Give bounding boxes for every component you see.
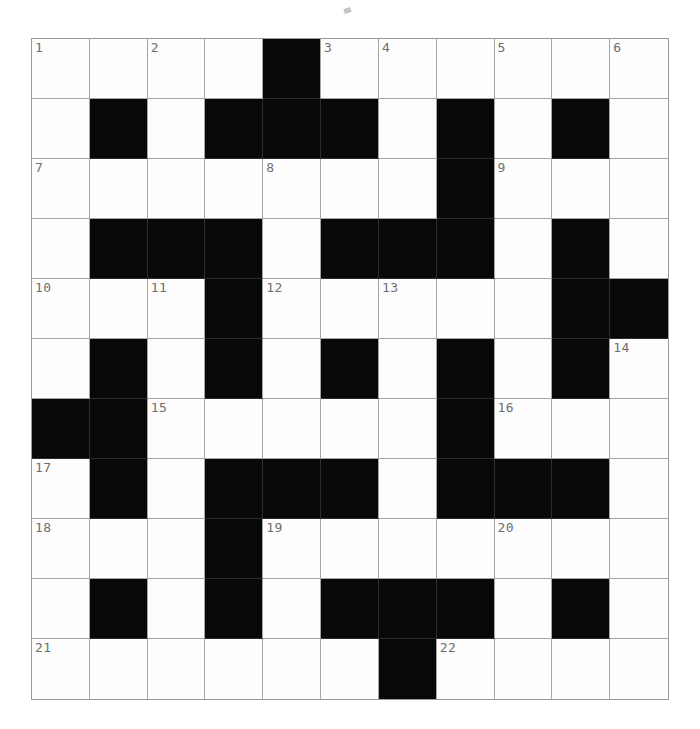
open-square[interactable] [610,399,668,459]
open-square[interactable] [495,639,553,699]
open-square[interactable]: 1 [32,39,90,99]
open-square[interactable] [90,159,148,219]
blocked-square [205,279,263,339]
open-square[interactable] [379,459,437,519]
open-square[interactable] [552,519,610,579]
open-square[interactable] [552,399,610,459]
blocked-square [437,579,495,639]
blocked-square [321,339,379,399]
open-square[interactable] [205,159,263,219]
open-square[interactable] [148,339,206,399]
open-square[interactable] [437,279,495,339]
open-square[interactable]: 10 [32,279,90,339]
open-square[interactable]: 16 [495,399,553,459]
open-square[interactable]: 9 [495,159,553,219]
blocked-square [552,99,610,159]
open-square[interactable] [321,159,379,219]
open-square[interactable]: 22 [437,639,495,699]
blocked-square [263,459,321,519]
open-square[interactable] [321,519,379,579]
open-square[interactable] [205,399,263,459]
open-square[interactable]: 6 [610,39,668,99]
open-square[interactable] [263,219,321,279]
clue-number: 6 [613,40,621,55]
open-square[interactable] [263,639,321,699]
open-square[interactable] [437,39,495,99]
open-square[interactable] [379,99,437,159]
open-square[interactable]: 7 [32,159,90,219]
open-square[interactable]: 4 [379,39,437,99]
open-square[interactable] [379,339,437,399]
open-square[interactable] [495,279,553,339]
open-square[interactable] [321,639,379,699]
clue-number: 20 [498,520,515,535]
open-square[interactable] [552,39,610,99]
open-square[interactable] [610,219,668,279]
open-square[interactable] [379,159,437,219]
blocked-square [552,219,610,279]
clue-number: 16 [498,400,515,415]
open-square[interactable]: 13 [379,279,437,339]
open-square[interactable] [32,339,90,399]
open-square[interactable] [610,519,668,579]
blocked-square [90,99,148,159]
open-square[interactable]: 19 [263,519,321,579]
open-square[interactable] [495,579,553,639]
crossword-grid[interactable]: 12345678910111213141516171819202122 [31,38,669,700]
open-square[interactable] [32,99,90,159]
open-square[interactable] [495,99,553,159]
open-square[interactable]: 14 [610,339,668,399]
clue-number: 19 [266,520,283,535]
open-square[interactable]: 3 [321,39,379,99]
open-square[interactable]: 15 [148,399,206,459]
open-square[interactable] [321,279,379,339]
open-square[interactable] [90,639,148,699]
clue-number: 22 [440,640,457,655]
clue-number: 1 [35,40,43,55]
blocked-square [437,459,495,519]
blocked-square [552,579,610,639]
open-square[interactable] [379,519,437,579]
open-square[interactable] [263,579,321,639]
open-square[interactable] [321,399,379,459]
open-square[interactable] [90,39,148,99]
open-square[interactable] [148,579,206,639]
open-square[interactable] [610,579,668,639]
open-square[interactable] [148,519,206,579]
open-square[interactable] [205,639,263,699]
open-square[interactable] [495,219,553,279]
clue-number: 11 [151,280,168,295]
open-square[interactable] [90,279,148,339]
open-square[interactable] [263,399,321,459]
clue-number: 13 [382,280,399,295]
open-square[interactable] [610,459,668,519]
open-square[interactable] [205,39,263,99]
open-square[interactable] [263,339,321,399]
open-square[interactable] [148,159,206,219]
open-square[interactable]: 21 [32,639,90,699]
open-square[interactable] [148,459,206,519]
open-square[interactable] [495,339,553,399]
open-square[interactable] [379,399,437,459]
open-square[interactable] [90,519,148,579]
open-square[interactable] [32,219,90,279]
open-square[interactable]: 11 [148,279,206,339]
open-square[interactable] [437,519,495,579]
open-square[interactable] [610,99,668,159]
open-square[interactable] [552,639,610,699]
open-square[interactable]: 5 [495,39,553,99]
open-square[interactable] [610,639,668,699]
open-square[interactable] [148,639,206,699]
open-square[interactable] [148,99,206,159]
open-square[interactable] [552,159,610,219]
open-square[interactable] [32,579,90,639]
open-square[interactable]: 17 [32,459,90,519]
open-square[interactable]: 20 [495,519,553,579]
open-square[interactable] [610,159,668,219]
open-square[interactable]: 8 [263,159,321,219]
clue-number: 21 [35,640,52,655]
blocked-square [148,219,206,279]
open-square[interactable]: 18 [32,519,90,579]
open-square[interactable]: 12 [263,279,321,339]
open-square[interactable]: 2 [148,39,206,99]
